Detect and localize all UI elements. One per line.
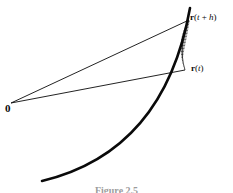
- diagram-canvas: [0, 0, 233, 193]
- label-r-t-plus-h-operator: +: [200, 12, 210, 22]
- trajectory-curve: [42, 8, 190, 181]
- label-r-t: r(t): [191, 64, 204, 73]
- figure-caption: Figure 2.5: [0, 186, 233, 193]
- label-r-t-close-paren: ): [201, 63, 204, 73]
- vector-position-diagram: 0 r(t + h) r(t) Figure 2.5: [0, 0, 233, 193]
- label-r-t-plus-h: r(t + h): [190, 13, 217, 22]
- label-r-t-plus-h-close-paren: ): [214, 12, 217, 22]
- origin-label: 0: [5, 103, 11, 114]
